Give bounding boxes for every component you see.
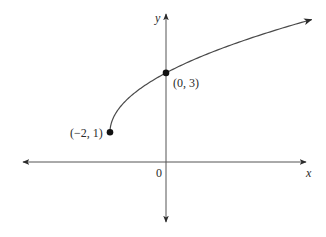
y-intercept-point	[163, 70, 170, 77]
x-axis-label: x	[305, 166, 312, 180]
function-curve	[110, 20, 312, 133]
point-label-vertex: (−2, 1)	[70, 126, 103, 140]
points-layer	[107, 70, 170, 136]
origin-label: 0	[156, 166, 162, 180]
y-axis-label: y	[154, 11, 161, 25]
function-graph: y x 0 (−2, 1) (0, 3)	[0, 0, 326, 237]
point-label-y-intercept: (0, 3)	[173, 76, 199, 90]
vertex-point	[107, 129, 114, 136]
